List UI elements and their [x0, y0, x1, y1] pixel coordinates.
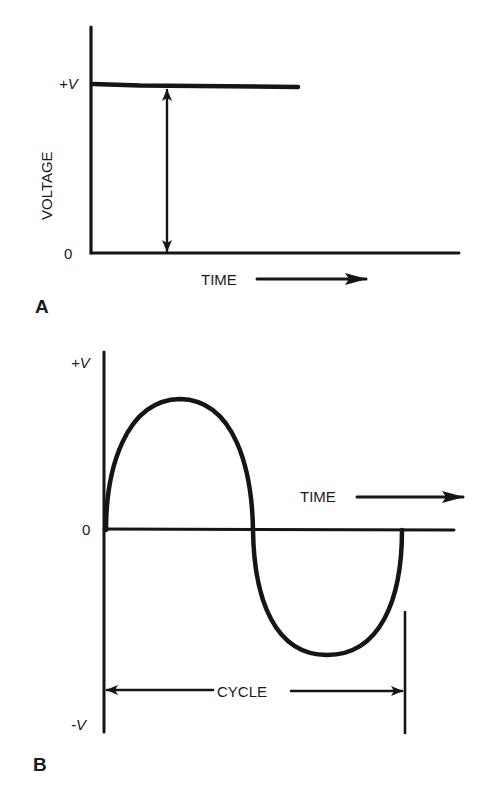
panel-b-letter: B [33, 754, 47, 775]
panel-b-zero-label: 0 [82, 521, 90, 538]
panel-a-letter: A [35, 296, 49, 317]
voltage-axis-label: VOLTAGE [38, 151, 55, 220]
panel-a-plus-v-label: +V [59, 75, 80, 92]
panel-b-plus-v-label: +V [71, 354, 92, 371]
ac-sine-wave [106, 399, 402, 655]
dc-voltage-line [93, 84, 298, 87]
panel-b-time-label: TIME [300, 488, 336, 505]
panel-b-minus-v-label: -V [71, 716, 88, 733]
panel-b: CYCLE +V 0 -V TIME B [33, 352, 463, 775]
dc-ac-voltage-figure: +V 0 VOLTAGE TIME A CYCLE +V 0 -V TIME B [0, 0, 488, 793]
cycle-label: CYCLE [217, 683, 267, 700]
panel-a: +V 0 VOLTAGE TIME A [35, 27, 459, 317]
panel-a-zero-label: 0 [64, 245, 72, 262]
panel-a-time-label: TIME [201, 271, 237, 288]
